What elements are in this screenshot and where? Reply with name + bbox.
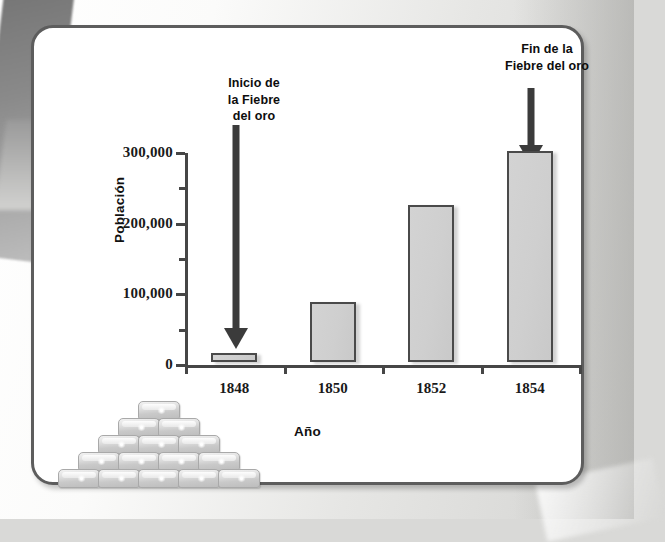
y-axis-minor-tick [179, 329, 185, 332]
gold-bar-stack-illustration [59, 401, 259, 496]
bar-1848 [211, 353, 257, 362]
y-axis-minor-tick [179, 258, 185, 261]
x-axis-tick-label: 1848 [219, 380, 249, 397]
y-axis-tick-label: 0 [165, 356, 173, 373]
x-axis-tick-label: 1850 [318, 380, 348, 397]
annotation-inicio-fiebre-del-oro: Inicio de la Fiebre del oro [189, 75, 319, 125]
gold-bar-icon [58, 469, 100, 488]
x-axis-tick [284, 365, 287, 374]
gold-bar-icon [138, 469, 180, 488]
plot-area: 0100,000200,000300,000 1848185018521854 [185, 153, 579, 365]
y-axis-tick [176, 293, 185, 296]
x-axis-tick-label: 1854 [515, 380, 545, 397]
x-axis-tick [579, 365, 582, 374]
chart-panel: Inicio de la Fiebre del oro Fin de la Fi… [31, 25, 584, 485]
y-axis-tick-label: 100,000 [123, 285, 173, 302]
x-axis-tick [481, 365, 484, 374]
arrow-shaft [528, 88, 535, 145]
bar-1850 [310, 302, 356, 362]
gold-bar-row [59, 469, 259, 488]
gold-bar-icon [218, 469, 260, 488]
bar-1852 [408, 205, 454, 362]
y-axis-tick [176, 364, 185, 367]
bar-1854 [507, 151, 553, 362]
annotation-fin-fiebre-del-oro: Fin de la Fiebre del oro [474, 41, 620, 74]
y-axis-tick [176, 223, 185, 226]
gold-bar-icon [178, 469, 220, 488]
y-axis-minor-tick [179, 187, 185, 190]
y-axis-line [185, 153, 188, 366]
gold-bar-icon [98, 469, 140, 488]
y-axis-tick [176, 152, 185, 155]
y-axis-title: Población [112, 177, 127, 243]
y-axis-tick-label: 200,000 [123, 215, 173, 232]
x-axis-tick [382, 365, 385, 374]
y-axis-tick-label: 300,000 [123, 144, 173, 161]
x-axis-tick [185, 365, 188, 374]
x-axis-tick-label: 1852 [416, 380, 446, 397]
